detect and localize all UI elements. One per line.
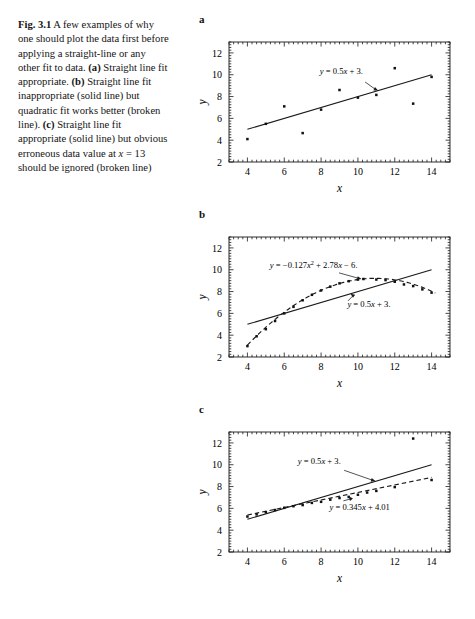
x-tick-label: 4	[245, 166, 250, 177]
data-point	[265, 123, 268, 126]
chart-a-plot: 46810121424681012xyy = 0.5x + 3.	[180, 10, 475, 206]
data-point	[338, 89, 341, 92]
y-tick-label: 6	[217, 113, 222, 124]
y-tick-label: 2	[217, 352, 222, 363]
chart-panel-a: a 46810121424681012xyy = 0.5x + 3.	[180, 10, 475, 206]
data-point	[265, 511, 268, 514]
caption-panel-ref: (c)	[43, 119, 55, 130]
x-tick-label: 10	[353, 556, 363, 567]
x-tick-label: 14	[427, 361, 437, 372]
data-point	[246, 345, 249, 348]
data-point	[255, 335, 258, 338]
equation-label-linear-fit-all: y = 0.5x + 3.	[297, 456, 341, 466]
y-tick-label: 12	[212, 48, 222, 59]
data-point	[246, 515, 249, 518]
figure-caption-body: A few examples of why one should plot th…	[18, 19, 169, 173]
x-tick-label: 8	[319, 166, 324, 177]
data-point	[292, 306, 295, 309]
leader-arrowhead-linear-fit-excluding-outlier	[349, 496, 353, 501]
y-tick-label: 12	[212, 438, 222, 449]
data-point	[274, 509, 277, 512]
data-point	[403, 283, 406, 286]
y-tick-label: 4	[217, 330, 222, 341]
leader-line-quadratic-fit	[339, 273, 358, 278]
equation-label-quadratic-fit: y = −0.127x2 + 2.78x − 6.	[269, 258, 358, 270]
y-tick-label: 2	[217, 547, 222, 558]
data-point	[375, 278, 378, 281]
equation-label-linear-fit: y = 0.5x + 3.	[319, 66, 363, 76]
figure-panels: a 46810121424681012xyy = 0.5x + 3. b 468…	[180, 0, 475, 619]
data-point	[301, 132, 304, 135]
x-tick-label: 14	[427, 556, 437, 567]
data-point	[265, 328, 268, 331]
caption-panel-ref: (a)	[88, 62, 100, 73]
data-point	[283, 507, 286, 510]
data-point	[394, 486, 397, 489]
x-tick-label: 4	[245, 361, 250, 372]
fit-curve-quadratic-fit	[247, 278, 435, 345]
figure-page: Fig. 3.1 A few examples of why one shoul…	[0, 0, 475, 619]
data-point	[283, 105, 286, 108]
data-point	[347, 280, 350, 283]
data-point	[412, 102, 415, 105]
data-point	[375, 94, 378, 97]
x-tick-label: 6	[282, 166, 287, 177]
data-point	[301, 299, 304, 302]
leader-line-linear-fit-all	[344, 470, 372, 480]
y-tick-label: 10	[212, 264, 222, 275]
y-axis-title: y	[196, 489, 209, 496]
data-point	[394, 280, 397, 283]
data-point	[301, 504, 304, 507]
data-points	[246, 67, 433, 140]
data-point	[329, 498, 332, 501]
x-tick-label: 4	[245, 556, 250, 567]
data-point	[430, 76, 433, 79]
leader-arrowhead-quadratic-fit	[357, 276, 362, 280]
y-tick-label: 4	[217, 525, 222, 536]
leader-arrowhead-linear-fit-all	[371, 478, 376, 482]
y-tick-label: 10	[212, 69, 222, 80]
data-point	[412, 285, 415, 288]
y-tick-label: 2	[217, 157, 222, 168]
x-axis-title: x	[336, 182, 343, 194]
data-point	[375, 490, 378, 493]
data-point	[311, 294, 314, 297]
y-tick-label: 12	[212, 243, 222, 254]
data-point	[329, 285, 332, 288]
y-tick-label: 6	[217, 503, 222, 514]
data-point	[274, 320, 277, 323]
x-axis-title: x	[336, 572, 343, 584]
chart-panel-c: c 46810121424681012xyy = 0.5x + 3.y = 0.…	[180, 400, 475, 596]
y-axis-title: y	[196, 294, 209, 301]
data-point	[255, 513, 258, 516]
data-point	[412, 437, 415, 440]
x-tick-label: 6	[282, 556, 287, 567]
data-point	[246, 138, 249, 141]
x-tick-label: 12	[390, 361, 400, 372]
data-point	[311, 502, 314, 505]
x-tick-label: 10	[353, 166, 363, 177]
data-point	[430, 291, 433, 294]
y-tick-label: 8	[217, 91, 222, 102]
x-tick-label: 14	[427, 166, 437, 177]
data-point	[357, 493, 360, 496]
x-tick-label: 12	[390, 556, 400, 567]
data-point	[421, 288, 424, 291]
y-tick-label: 8	[217, 286, 222, 297]
figure-number: Fig. 3.1	[18, 19, 51, 30]
figure-caption: Fig. 3.1 A few examples of why one shoul…	[18, 18, 170, 175]
equation-label-linear-fit-excluding-outlier: y = 0.345x + 4.01	[329, 502, 390, 512]
data-point	[430, 479, 433, 482]
data-point	[338, 282, 341, 285]
x-tick-label: 8	[319, 361, 324, 372]
chart-b-plot: 46810121424681012xyy = 0.5x + 3.y = −0.1…	[180, 205, 475, 401]
data-points	[246, 278, 433, 348]
data-point	[283, 312, 286, 315]
x-tick-label: 10	[353, 361, 363, 372]
y-tick-label: 4	[217, 135, 222, 146]
x-tick-label: 12	[390, 166, 400, 177]
data-point	[320, 501, 323, 504]
chart-c-plot: 46810121424681012xyy = 0.5x + 3.y = 0.34…	[180, 400, 475, 596]
y-tick-label: 10	[212, 459, 222, 470]
data-point	[320, 289, 323, 292]
